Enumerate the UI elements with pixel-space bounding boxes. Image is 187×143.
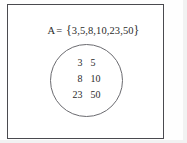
element-value: 10 — [87, 72, 113, 86]
element-value: 8 — [61, 72, 87, 86]
set-definition-label: A= {3,5,8,10,23,50} — [0, 24, 187, 37]
figure-canvas: A= {3,5,8,10,23,50} 3 5 8 10 23 50 — [0, 0, 187, 143]
set-elements-inline: 3,5,8,10,23,50 — [72, 25, 134, 36]
equals-sign: = — [55, 25, 63, 36]
element-value: 23 — [61, 88, 87, 102]
element-value: 50 — [87, 88, 113, 102]
close-brace: } — [134, 23, 140, 37]
element-value: 5 — [87, 56, 113, 70]
scan-edge-artifact — [0, 140, 187, 143]
set-element-grid: 3 5 8 10 23 50 — [55, 56, 118, 102]
element-row: 3 5 — [55, 56, 118, 70]
element-row: 8 10 — [55, 72, 118, 86]
element-value: 3 — [61, 56, 87, 70]
element-row: 23 50 — [55, 88, 118, 102]
scan-edge-artifact — [183, 0, 187, 143]
